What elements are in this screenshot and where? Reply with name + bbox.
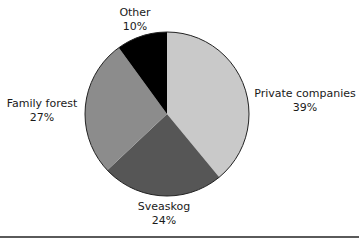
- label-sveaskog-name: Sveaskog: [138, 200, 190, 214]
- label-family-forest: Family forest 27%: [7, 97, 78, 124]
- label-family-forest-value: 27%: [7, 111, 78, 125]
- bottom-divider: [0, 236, 359, 238]
- label-other-value: 10%: [119, 20, 150, 34]
- label-other: Other 10%: [119, 6, 150, 33]
- label-sveaskog: Sveaskog 24%: [138, 200, 190, 227]
- label-other-name: Other: [119, 6, 150, 20]
- label-private-companies-name: Private companies: [254, 87, 356, 101]
- label-sveaskog-value: 24%: [138, 214, 190, 228]
- label-private-companies: Private companies 39%: [254, 87, 356, 114]
- label-family-forest-name: Family forest: [7, 97, 78, 111]
- label-private-companies-value: 39%: [254, 101, 356, 115]
- pie-slices: [85, 32, 249, 196]
